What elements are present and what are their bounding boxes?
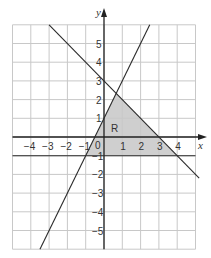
- y-tick-label: 1: [96, 113, 102, 124]
- graph-svg: yx−4−3−2−1123454321−1−2−3−4−50R: [0, 0, 211, 258]
- y-axis-label: y: [95, 6, 101, 18]
- x-tick-label: −3: [42, 141, 54, 152]
- y-tick-label: −4: [92, 207, 104, 218]
- origin-label: 0: [95, 140, 101, 151]
- x-tick-label: 4: [175, 141, 181, 152]
- y-tick-label: 3: [96, 76, 102, 87]
- y-tick-label: 2: [96, 95, 102, 106]
- y-tick-label: −5: [92, 226, 104, 237]
- x-tick-label: 1: [120, 141, 126, 152]
- x-axis-label: x: [197, 139, 203, 151]
- y-tick-label: −3: [92, 188, 104, 199]
- y-tick-label: −1: [92, 151, 104, 162]
- coordinate-graph: yx−4−3−2−1123454321−1−2−3−4−50R: [0, 0, 211, 258]
- y-axis-arrow-icon: [101, 8, 107, 17]
- x-tick-label: −2: [60, 141, 72, 152]
- x-tick-label: 3: [157, 141, 163, 152]
- x-tick-label: 2: [139, 141, 145, 152]
- y-tick-label: 4: [96, 57, 102, 68]
- y-tick-label: −2: [92, 169, 104, 180]
- x-tick-label: −4: [24, 141, 36, 152]
- region-label: R: [111, 123, 118, 134]
- x-tick-label: −1: [79, 141, 91, 152]
- y-tick-label: 5: [96, 39, 102, 50]
